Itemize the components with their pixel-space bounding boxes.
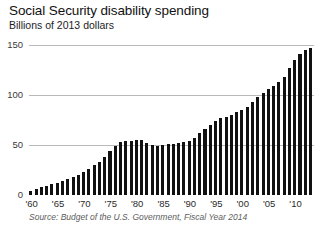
bar [114, 146, 117, 195]
bar [283, 77, 286, 195]
bar [40, 187, 43, 195]
bar [135, 140, 138, 195]
bar [98, 162, 101, 195]
bar [203, 129, 206, 195]
x-axis-tick-1995: '95 [210, 198, 222, 209]
bar [256, 97, 259, 195]
x-axis-tick-1975: '75 [105, 198, 117, 209]
bar [230, 115, 233, 195]
bar [130, 141, 133, 195]
x-axis-tick-2010: '10 [289, 198, 301, 209]
bar [119, 142, 122, 195]
bar [272, 86, 275, 195]
x-axis-tick-1985: '85 [157, 198, 169, 209]
bar [240, 110, 243, 195]
bar [82, 172, 85, 195]
bar [267, 89, 270, 195]
bar [235, 112, 238, 195]
x-axis-tick-1970: '70 [78, 198, 90, 209]
bar [172, 144, 175, 195]
source-note: Source: Budget of the U.S. Government, F… [29, 212, 247, 222]
y-axis-tick-0: 0 [18, 190, 23, 200]
bar [151, 145, 154, 195]
bar [214, 121, 217, 195]
bar [35, 189, 38, 195]
bar [56, 183, 59, 195]
bar [103, 157, 106, 195]
bar [145, 143, 148, 195]
x-axis-tick-1960: '60 [25, 198, 37, 209]
bar [66, 179, 69, 195]
bar [45, 186, 48, 195]
bar [251, 102, 254, 195]
chart-root: Social Security disability spending Bill… [0, 0, 326, 231]
x-axis-tick-1990: '90 [184, 198, 196, 209]
bar [188, 141, 191, 195]
x-axis-tick-1980: '80 [131, 198, 143, 209]
bar [77, 175, 80, 195]
bar [93, 165, 96, 195]
bar [167, 144, 170, 195]
bar [29, 191, 32, 195]
bar [309, 48, 312, 195]
y-axis-tick-50: 50 [12, 140, 23, 150]
bar [61, 181, 64, 195]
bar-series [29, 40, 314, 195]
bar [293, 60, 296, 195]
bar [225, 117, 228, 195]
bar [193, 138, 196, 195]
bar [156, 146, 159, 195]
bar [219, 118, 222, 195]
bar [50, 184, 53, 195]
bar [87, 169, 90, 195]
bar [298, 54, 301, 195]
bar [304, 50, 307, 195]
x-axis-tick-2000: '00 [237, 198, 249, 209]
bar [288, 68, 291, 195]
bar [161, 145, 164, 195]
bar [108, 151, 111, 195]
bar [72, 177, 75, 195]
y-axis-tick-100: 100 [7, 90, 23, 100]
bar [262, 93, 265, 195]
bar [198, 133, 201, 195]
x-axis-tick-1965: '65 [52, 198, 64, 209]
bar [140, 140, 143, 195]
y-axis-tick-150: 150 [7, 40, 23, 50]
bar [124, 141, 127, 195]
bar [246, 107, 249, 195]
bar [177, 143, 180, 195]
plot-area: 050100150 '60'65'70'75'80'85'90'95'00'05… [0, 0, 326, 231]
bar [182, 142, 185, 195]
bar [209, 125, 212, 195]
bar [277, 82, 280, 195]
x-axis-tick-2005: '05 [263, 198, 275, 209]
